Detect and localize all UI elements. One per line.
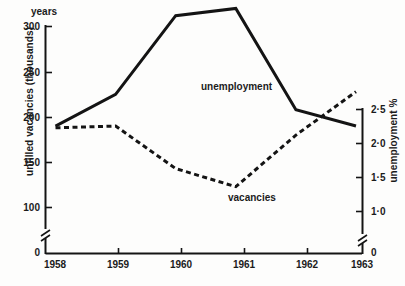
series-line-unemployment — [56, 8, 357, 126]
series-line-vacancies — [56, 92, 357, 187]
chart-figure: years unfilled vacancies (thousands) une… — [0, 0, 405, 286]
plot-area — [0, 0, 405, 286]
